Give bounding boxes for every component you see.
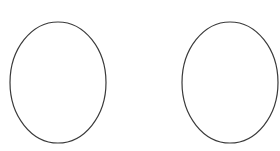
right-ellipse: [182, 22, 278, 143]
left-ellipse: [10, 22, 106, 143]
diagram-canvas: [0, 0, 280, 151]
